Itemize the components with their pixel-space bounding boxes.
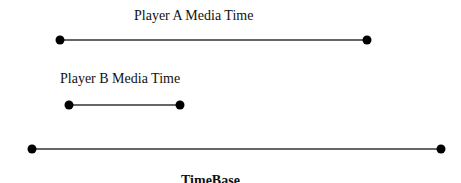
player-b-start-dot bbox=[65, 101, 74, 110]
timebase-end-dot bbox=[437, 145, 446, 154]
timebase-label: TimeBase bbox=[181, 173, 240, 183]
timebase-start-dot bbox=[28, 145, 37, 154]
timeline-diagram bbox=[0, 0, 461, 183]
timebase-timeline bbox=[28, 145, 446, 154]
player-b-label: Player B Media Time bbox=[60, 71, 180, 87]
player-a-start-dot bbox=[56, 36, 65, 45]
player-a-end-dot bbox=[363, 36, 372, 45]
player-a-timeline bbox=[56, 36, 372, 45]
player-b-timeline bbox=[65, 101, 185, 110]
player-a-label: Player A Media Time bbox=[134, 8, 253, 24]
player-b-end-dot bbox=[176, 101, 185, 110]
